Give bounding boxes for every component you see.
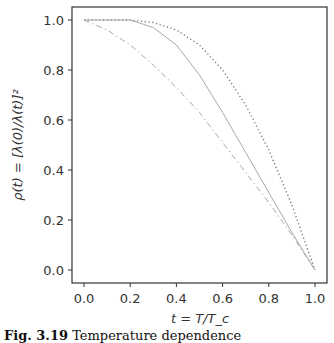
x-tick-label: 1.0 bbox=[305, 291, 326, 306]
y-axis-label: ρ(t) = [λ(0)/λ(t)]² bbox=[10, 89, 25, 200]
series-line-solid bbox=[84, 20, 315, 270]
x-tick-label: 0.0 bbox=[74, 291, 95, 306]
y-axis-ticks: 0.00.20.40.60.81.0 bbox=[43, 13, 72, 278]
caption-text: Temperature dependence bbox=[72, 328, 241, 343]
x-tick-label: 0.8 bbox=[258, 291, 279, 306]
y-tick-label: 0.6 bbox=[43, 113, 64, 128]
axes-frame bbox=[72, 7, 327, 283]
series-line-dotted bbox=[84, 20, 315, 270]
x-axis-label: t = T/T_c bbox=[171, 311, 229, 326]
x-tick-label: 0.6 bbox=[212, 291, 233, 306]
y-tick-label: 0.2 bbox=[43, 213, 64, 228]
x-tick-label: 0.2 bbox=[120, 291, 141, 306]
y-tick-label: 1.0 bbox=[43, 13, 64, 28]
plot-area bbox=[84, 20, 315, 270]
series-line-dash-dot bbox=[84, 20, 315, 270]
y-tick-label: 0.4 bbox=[43, 163, 64, 178]
x-tick-label: 0.4 bbox=[166, 291, 187, 306]
caption-label: Fig. 3.19 bbox=[4, 328, 68, 343]
figure-caption: Fig. 3.19 Temperature dependence bbox=[4, 328, 241, 343]
x-axis-ticks: 0.00.20.40.60.81.0 bbox=[74, 283, 326, 306]
y-tick-label: 0.8 bbox=[43, 63, 64, 78]
y-tick-label: 0.0 bbox=[43, 263, 64, 278]
